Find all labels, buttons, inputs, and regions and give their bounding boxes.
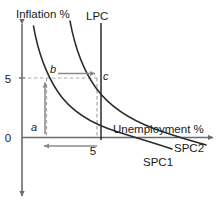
x-tick-label-5: 5 — [90, 145, 96, 157]
y-tick-label-0: 0 — [5, 132, 11, 144]
point-label-c: c — [103, 70, 109, 82]
spc1-label: SPC1 — [143, 156, 173, 168]
point-label-b: b — [50, 63, 56, 75]
diagram-svg: Inflation % Unemployment % LPC SPC1 SPC2… — [0, 0, 221, 208]
point-label-a: a — [31, 121, 37, 133]
y-axis-label: Inflation % — [16, 8, 70, 20]
phillips-curve-diagram: Inflation % Unemployment % LPC SPC1 SPC2… — [0, 0, 221, 208]
x-axis-label: Unemployment % — [113, 123, 204, 135]
y-tick-label-5: 5 — [5, 73, 11, 85]
lpc-label: LPC — [86, 10, 108, 22]
spc2-label: SPC2 — [174, 142, 204, 154]
